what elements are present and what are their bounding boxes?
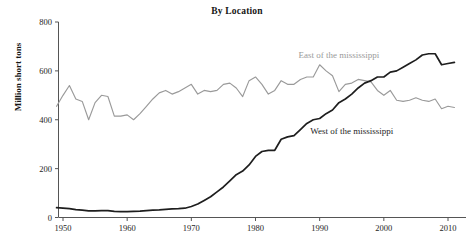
y-tick-label: 0: [24, 213, 52, 223]
x-tick-label: 1960: [119, 223, 136, 233]
series-annotation-west-of-the-mississippi: West of the mississippi: [310, 126, 393, 136]
x-tick-label: 1970: [183, 223, 200, 233]
y-tick-label: 600: [24, 66, 52, 76]
x-tick-label: 2000: [375, 223, 392, 233]
series-group: [57, 54, 455, 212]
series-line-east-of-the-mississippi: [57, 65, 455, 120]
x-axis-ticks: [63, 218, 448, 222]
y-tick-label: 200: [24, 164, 52, 174]
plot-area: [0, 0, 474, 249]
x-tick-label: 1990: [311, 223, 328, 233]
x-tick-label: 2010: [440, 223, 457, 233]
chart-container: By Location Million short tons 020040060…: [0, 0, 474, 249]
y-tick-label: 400: [24, 115, 52, 125]
x-tick-label: 1950: [55, 223, 72, 233]
axes-group: [55, 22, 466, 221]
series-annotation-east-of-the-mississippi: East of the mississippi: [299, 50, 380, 60]
y-tick-label: 800: [24, 17, 52, 27]
y-axis-ticks: [55, 22, 59, 218]
x-tick-label: 1980: [247, 223, 264, 233]
